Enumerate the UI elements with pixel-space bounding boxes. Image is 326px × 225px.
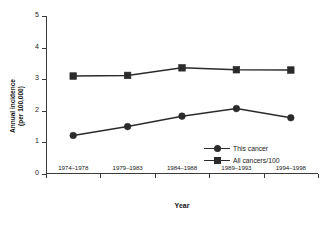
x-category-label-2: 1984–1988 bbox=[167, 164, 197, 171]
data-point-0-4[interactable] bbox=[288, 114, 295, 121]
data-point-1-3[interactable] bbox=[233, 66, 240, 73]
legend-item-all-cancers[interactable]: All cancers/100 bbox=[204, 154, 314, 166]
x-tick-1 bbox=[100, 174, 101, 178]
legend-marker-square-icon bbox=[204, 155, 230, 166]
legend-item-this-cancer[interactable]: This cancer bbox=[204, 142, 314, 154]
series-all-cancers bbox=[70, 65, 294, 80]
data-point-1-4[interactable] bbox=[288, 67, 295, 74]
y-axis-title-line2: (per 100,000) bbox=[17, 86, 24, 126]
data-point-0-0[interactable] bbox=[70, 132, 77, 139]
legend-label-this-cancer: This cancer bbox=[233, 145, 268, 152]
y-tick-label-1: 1 bbox=[35, 137, 39, 144]
chart-figure: Annual incidence (per 100,000) 012345 19… bbox=[0, 0, 326, 225]
data-point-0-2[interactable] bbox=[179, 113, 186, 120]
data-point-1-2[interactable] bbox=[179, 65, 186, 72]
data-point-0-1[interactable] bbox=[124, 123, 131, 130]
x-tick-4 bbox=[264, 174, 265, 178]
legend-marker-circle-icon bbox=[204, 143, 230, 154]
y-tick-label-3: 3 bbox=[35, 74, 39, 81]
x-category-label-1: 1979–1983 bbox=[113, 164, 143, 171]
y-axis-title: Annual incidence (per 100,000) bbox=[6, 56, 28, 156]
data-point-1-0[interactable] bbox=[70, 73, 77, 80]
x-tick-5 bbox=[318, 174, 319, 178]
x-tick-3 bbox=[209, 174, 210, 178]
y-tick-label-2: 2 bbox=[35, 106, 39, 113]
x-category-label-0: 1974–1978 bbox=[58, 164, 88, 171]
x-tick-0 bbox=[46, 174, 47, 178]
data-point-1-1[interactable] bbox=[124, 72, 131, 79]
x-tick-2 bbox=[155, 174, 156, 178]
y-axis-title-line1: Annual incidence bbox=[9, 79, 16, 133]
legend-label-all-cancers: All cancers/100 bbox=[233, 157, 279, 164]
series-this-cancer bbox=[70, 105, 294, 138]
data-point-0-3[interactable] bbox=[233, 105, 240, 112]
x-axis-title: Year bbox=[46, 202, 318, 209]
chart-legend: This cancer All cancers/100 bbox=[204, 142, 314, 166]
y-tick-label-4: 4 bbox=[35, 43, 39, 50]
chart-title bbox=[0, 0, 326, 6]
y-tick-label-5: 5 bbox=[35, 11, 39, 18]
y-tick-label-0: 0 bbox=[35, 169, 39, 176]
